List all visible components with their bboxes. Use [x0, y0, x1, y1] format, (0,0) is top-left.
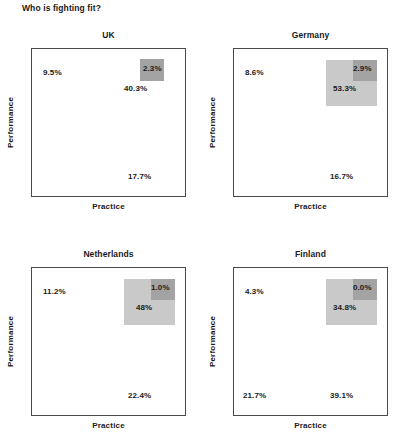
plot-area-netherlands: 11.2% 1.0% 48% 22.4% [31, 267, 186, 416]
value-top-left-netherlands: 11.2% [43, 287, 66, 296]
panel-germany: Germany Performance 8.6% 2.9% 53.3% 16.7… [202, 0, 404, 219]
value-top-left-uk: 9.5% [43, 68, 62, 77]
y-axis-label-finland: Performance [206, 267, 220, 416]
value-mid-right-finland: 34.8% [333, 303, 356, 312]
panel-title-uk: UK [31, 30, 186, 40]
panel-netherlands: Netherlands Performance 11.2% 1.0% 48% 2… [0, 219, 202, 438]
panel-title-wrap-uk: UK [31, 30, 186, 40]
y-axis-label-uk: Performance [4, 48, 18, 197]
x-axis-label-finland: Practice [233, 421, 388, 430]
value-bottom-right-finland: 39.1% [330, 391, 353, 400]
y-axis-label-text: Performance [7, 316, 16, 367]
y-axis-label-germany: Performance [206, 48, 220, 197]
y-axis-label-text: Performance [7, 97, 16, 148]
y-axis-label-text: Performance [209, 316, 218, 367]
plot-area-finland: 4.3% 0.0% 34.8% 21.7% 39.1% [233, 267, 388, 416]
panel-uk: UK Performance 9.5% 2.3% 40.3% 17.7% Pra… [0, 0, 202, 219]
panel-title-wrap-netherlands: Netherlands [31, 249, 186, 259]
value-bottom-right-netherlands: 22.4% [128, 391, 151, 400]
value-top-right-netherlands: 1.0% [151, 283, 170, 292]
panel-title-wrap-finland: Finland [233, 249, 388, 259]
value-bottom-right-uk: 17.7% [128, 172, 151, 181]
x-axis-label-uk: Practice [31, 202, 186, 211]
panel-finland: Finland Performance 4.3% 0.0% 34.8% 21.7… [202, 219, 404, 438]
value-mid-right-germany: 53.3% [333, 84, 356, 93]
value-mid-right-uk: 40.3% [124, 84, 147, 93]
value-top-right-uk: 2.3% [143, 64, 162, 73]
plot-area-germany: 8.6% 2.9% 53.3% 16.7% [233, 48, 388, 197]
panel-title-germany: Germany [233, 30, 388, 40]
panel-title-finland: Finland [233, 249, 388, 259]
value-top-left-germany: 8.6% [245, 68, 264, 77]
y-axis-label-text: Performance [209, 97, 218, 148]
value-bottom-left-finland: 21.7% [243, 391, 266, 400]
value-mid-right-netherlands: 48% [136, 303, 152, 312]
x-axis-label-germany: Practice [233, 202, 388, 211]
value-top-right-finland: 0.0% [353, 283, 372, 292]
x-axis-label-netherlands: Practice [31, 421, 186, 430]
y-axis-label-netherlands: Performance [4, 267, 18, 416]
panel-title-wrap-germany: Germany [233, 30, 388, 40]
value-top-left-finland: 4.3% [245, 287, 264, 296]
value-top-right-germany: 2.9% [353, 64, 372, 73]
panel-title-netherlands: Netherlands [31, 249, 186, 259]
value-bottom-right-germany: 16.7% [330, 172, 353, 181]
plot-area-uk: 9.5% 2.3% 40.3% 17.7% [31, 48, 186, 197]
